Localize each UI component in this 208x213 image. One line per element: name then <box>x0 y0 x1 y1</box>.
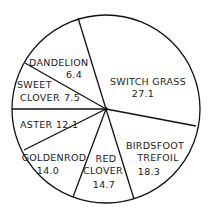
pie-chart: SWITCH GRASS 27.1 BIRDSFOOT TREFOIL 18.3… <box>0 0 208 213</box>
slice-label-name: SWEET <box>17 79 52 90</box>
slice-label-value: 12.1 <box>56 119 78 130</box>
slice-label-name-2: CLOVER <box>20 92 60 103</box>
slice-label-name: SWITCH GRASS <box>110 76 186 87</box>
slice-label-name-2: CLOVER <box>83 165 123 176</box>
slice-label-value: 6.4 <box>66 69 82 80</box>
slice-label-value: 14.7 <box>93 179 115 190</box>
slice-label-name: DANDELION <box>29 57 88 68</box>
slice-goldenrod: GOLDENROD 14.0 <box>22 152 87 176</box>
slice-switch-grass: SWITCH GRASS 27.1 <box>110 76 186 99</box>
slice-label-name-2: TREFOIL <box>136 152 179 163</box>
slice-label-value: 18.3 <box>138 166 160 177</box>
slice-label-value: 14.0 <box>37 165 59 176</box>
slice-birdsfoot-trefoil: BIRDSFOOT TREFOIL 18.3 <box>126 140 184 177</box>
slice-label-name: RED <box>96 153 117 164</box>
pie-center <box>104 107 108 111</box>
slice-aster: ASTER 12.1 <box>20 119 78 130</box>
slice-dandelion: DANDELION 6.4 <box>29 57 88 80</box>
slice-label-value: 27.1 <box>132 88 154 99</box>
slice-label-name: GOLDENROD <box>22 152 87 163</box>
slice-red-clover: RED CLOVER 14.7 <box>83 153 123 190</box>
slice-label-name: BIRDSFOOT <box>126 140 184 151</box>
slice-sweet-clover: SWEET CLOVER 7.5 <box>17 79 80 103</box>
slice-divider <box>106 109 196 126</box>
slice-label-name: ASTER <box>20 119 53 130</box>
slice-label-value: 7.5 <box>64 92 80 103</box>
